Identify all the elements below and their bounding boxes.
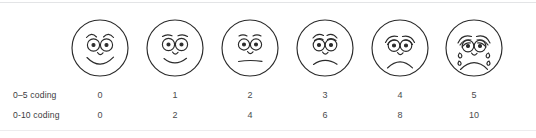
code-0-10-value-3: 6	[305, 110, 345, 120]
code-0-5-value-3: 3	[305, 90, 345, 100]
top-divider	[0, 2, 536, 3]
face-cell-1[interactable]	[144, 12, 206, 84]
code-0-5-value-2: 2	[230, 90, 270, 100]
face-slight-smile-icon	[144, 12, 206, 84]
code-0-5-value-5: 5	[454, 90, 494, 100]
row-label-0-5-coding: 0–5 coding	[13, 90, 57, 100]
face-cell-3[interactable]	[294, 12, 356, 84]
faces-pain-rating-scale: 0–5 coding 0-10 coding 0 1 2 3 4 5 0 2 4…	[0, 0, 536, 138]
face-slight-frown-icon	[294, 12, 356, 84]
face-neutral-icon	[219, 12, 281, 84]
code-0-5-value-1: 1	[155, 90, 195, 100]
bottom-divider	[0, 130, 536, 131]
face-cell-0[interactable]	[69, 12, 131, 84]
face-cell-2[interactable]	[219, 12, 281, 84]
face-sad-icon	[369, 12, 431, 84]
code-0-10-value-4: 8	[380, 110, 420, 120]
face-cell-4[interactable]	[369, 12, 431, 84]
face-cell-5[interactable]	[443, 12, 505, 84]
code-0-10-value-5: 10	[454, 110, 494, 120]
code-0-10-value-0: 0	[80, 110, 120, 120]
code-0-5-value-0: 0	[80, 90, 120, 100]
code-0-10-value-2: 4	[230, 110, 270, 120]
face-crying-icon	[443, 12, 505, 84]
row-label-0-10-coding: 0-10 coding	[13, 110, 60, 120]
faces-row	[0, 12, 536, 84]
face-happy-icon	[69, 12, 131, 84]
code-0-10-value-1: 2	[155, 110, 195, 120]
code-0-5-value-4: 4	[380, 90, 420, 100]
